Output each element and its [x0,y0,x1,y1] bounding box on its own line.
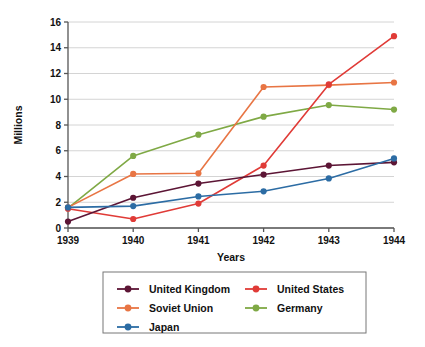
data-point [130,195,136,201]
data-point [195,180,201,186]
data-point [326,81,332,87]
y-tick-label: 2 [55,197,61,208]
data-point [326,102,332,108]
data-point [261,171,267,177]
data-point [391,33,397,39]
data-point [391,155,397,161]
y-axis-title: Millions [12,105,24,144]
line-chart: 0246810121416193919401941194219431944Yea… [0,0,425,347]
data-point [65,218,71,224]
data-point [195,193,201,199]
y-tick-label: 12 [50,68,62,79]
legend-marker-dot [125,324,132,331]
x-tick-label: 1940 [122,235,145,246]
data-point [261,84,267,90]
x-tick-label: 1943 [318,235,341,246]
x-axis-title: Years [217,251,245,263]
legend-marker-dot [125,286,132,293]
legend-label: United States [277,283,344,295]
data-point [195,132,201,138]
data-point [130,171,136,177]
data-point [391,79,397,85]
data-point [130,203,136,209]
y-tick-label: 4 [55,171,61,182]
data-point [130,153,136,159]
y-tick-label: 16 [50,17,62,28]
data-point [261,162,267,168]
y-axis-ticks: 0246810121416 [50,17,68,234]
data-point [326,162,332,168]
y-tick-label: 14 [50,42,62,53]
y-tick-label: 8 [55,120,61,131]
legend-marker-dot [253,305,260,312]
legend-label: Germany [277,302,323,314]
legend-marker-dot [253,286,260,293]
legend-box [103,272,366,333]
legend: United KingdomUnited StatesSoviet UnionG… [103,272,366,333]
legend-label: United Kingdom [149,283,230,295]
data-point [261,188,267,194]
data-point [130,216,136,222]
data-point [195,200,201,206]
y-tick-label: 6 [55,145,61,156]
x-tick-label: 1941 [187,235,210,246]
data-point [326,175,332,181]
legend-label: Soviet Union [149,302,213,314]
x-tick-label: 1939 [57,235,80,246]
legend-label: Japan [149,321,179,333]
data-point [391,106,397,112]
data-point [195,170,201,176]
x-axis-ticks: 193919401941194219431944 [57,228,406,246]
x-tick-label: 1942 [252,235,275,246]
data-point [65,204,71,210]
x-tick-label: 1944 [383,235,406,246]
y-tick-label: 10 [50,94,62,105]
legend-marker-dot [125,305,132,312]
chart-canvas: 0246810121416193919401941194219431944Yea… [0,0,425,347]
y-tick-label: 0 [55,223,61,234]
data-point [261,114,267,120]
